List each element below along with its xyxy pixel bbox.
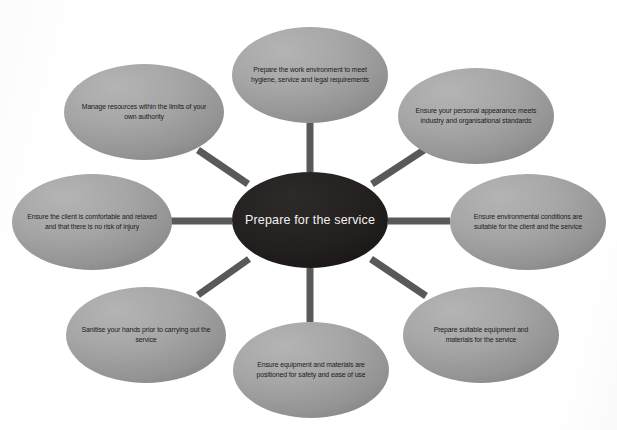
node-left[interactable]: [12, 174, 172, 270]
node-top[interactable]: [232, 27, 388, 123]
node-right[interactable]: [450, 174, 606, 270]
diagram-canvas: Prepare the work environment to meet hyg…: [0, 0, 617, 430]
spoke-bottom-left: [198, 259, 249, 295]
spoke-top-left: [198, 150, 248, 184]
spoke-bottom-right: [371, 259, 426, 296]
node-top-left[interactable]: [64, 64, 224, 160]
diagram-graphics: [0, 0, 617, 430]
spoke-top-right: [372, 150, 424, 184]
node-top-right[interactable]: [398, 68, 554, 164]
node-bottom[interactable]: [233, 322, 389, 418]
center-node-layer: [232, 172, 388, 268]
node-bottom-left[interactable]: [66, 287, 226, 383]
center-node[interactable]: [232, 172, 388, 268]
node-bottom-right[interactable]: [403, 287, 559, 383]
